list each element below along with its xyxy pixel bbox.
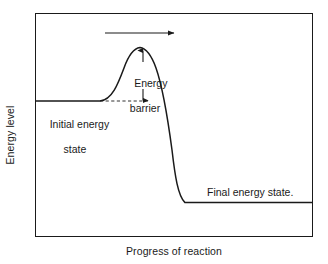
energy-barrier-label-line2: barrier <box>122 102 168 115</box>
initial-energy-state-label-line2: state <box>38 143 112 156</box>
energy-barrier-label-line1: Energy <box>134 77 167 89</box>
x-axis-label: Progress of reaction <box>35 245 313 257</box>
energy-diagram-figure: Energy level Progress of reaction Initia… <box>0 0 328 264</box>
initial-energy-state-label-line1: Initial energy <box>50 118 110 130</box>
final-energy-state-label: Final energy state. <box>207 186 293 199</box>
initial-energy-state-label: Initial energy state <box>38 105 128 180</box>
final-energy-state-label-text: Final energy state. <box>207 186 293 198</box>
y-axis-label: Energy level <box>0 0 20 264</box>
energy-barrier-label: Energy barrier <box>122 64 168 139</box>
x-axis-label-text: Progress of reaction <box>126 245 222 257</box>
y-axis-label-text: Energy level <box>4 85 16 185</box>
